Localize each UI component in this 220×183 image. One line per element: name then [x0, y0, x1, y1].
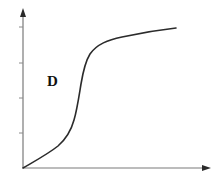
- y-axis-arrow-icon: [20, 8, 26, 17]
- sigmoid-chart: [0, 0, 220, 183]
- curve-label-d: D: [47, 74, 58, 89]
- curve-d: [23, 28, 176, 168]
- x-axis-arrow-icon: [202, 165, 211, 171]
